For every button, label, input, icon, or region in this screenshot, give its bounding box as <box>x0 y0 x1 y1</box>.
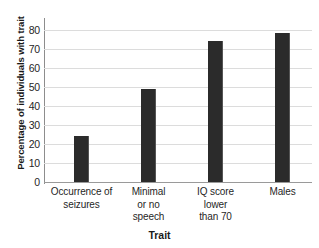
bar <box>74 136 89 182</box>
bar <box>141 89 156 182</box>
x-axis-tick-label-line: than 70 <box>172 211 259 224</box>
x-axis-tick-label: Males <box>239 186 319 199</box>
y-axis-tick-label: 10 <box>14 158 40 168</box>
x-axis-tick-labels: Occurrence ofseizuresMinimalor nospeechI… <box>44 186 312 234</box>
bar <box>275 33 290 182</box>
bar <box>208 41 223 182</box>
y-axis-tick-label: 60 <box>14 63 40 73</box>
y-axis-tick-label: 30 <box>14 120 40 130</box>
y-axis-tick-label: 40 <box>14 101 40 111</box>
x-axis-tick-label-line: lower <box>172 199 259 212</box>
bars-layer <box>44 20 312 182</box>
y-axis-tick-labels: 01020304050607080 <box>12 0 40 248</box>
x-axis-line <box>44 182 312 183</box>
bar-chart-figure: Percentage of individuals with trait 010… <box>0 0 319 248</box>
y-axis-tick-label: 50 <box>14 82 40 92</box>
x-axis-tick-label-line: Males <box>239 186 319 199</box>
y-axis-tick-label: 80 <box>14 25 40 35</box>
y-axis-tick-label: 0 <box>14 177 40 187</box>
y-axis-tick-label: 70 <box>14 44 40 54</box>
x-axis-title: Trait <box>0 229 319 241</box>
y-axis-tick-label: 20 <box>14 139 40 149</box>
